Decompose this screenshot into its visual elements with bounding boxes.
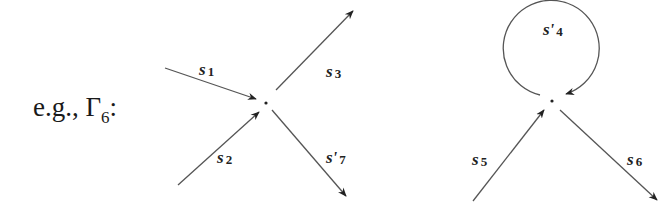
label-s2: s2: [217, 148, 232, 168]
label-letter: s: [627, 150, 634, 169]
label-letter: s': [543, 20, 554, 39]
edge-s4-prime-loop: [503, 0, 599, 95]
vertex-dot: [264, 101, 267, 104]
vertex-right: [473, 0, 657, 201]
label-s4-prime: s'4: [543, 20, 563, 40]
label-letter: s: [199, 60, 206, 79]
label-index: 7: [339, 152, 346, 167]
label-s6: s6: [627, 150, 642, 170]
label-s7-prime: s'7: [326, 148, 346, 168]
label-letter: s: [217, 148, 224, 167]
label-letter: s': [326, 148, 337, 167]
label-letter: s: [472, 150, 479, 169]
label-letter: s: [326, 62, 333, 81]
label-s3: s3: [326, 62, 341, 82]
label-index: 3: [335, 66, 342, 81]
label-s1: s1: [199, 60, 214, 80]
label-index: 4: [556, 24, 563, 39]
label-index: 5: [481, 154, 488, 169]
label-index: 1: [208, 64, 215, 79]
edge-s6: [560, 110, 657, 200]
vertex-dot: [550, 99, 553, 102]
edge-s3: [276, 11, 353, 90]
label-s5: s5: [472, 150, 487, 170]
vertex-left: [165, 11, 353, 196]
label-index: 6: [636, 154, 643, 169]
label-index: 2: [226, 152, 233, 167]
